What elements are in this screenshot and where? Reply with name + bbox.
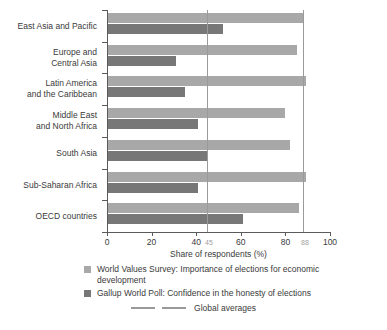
bar-chart-figure: East Asia and Pacific Europe and Central… (0, 0, 387, 330)
bar-wvs (107, 172, 306, 182)
category-label-line: South Asia (0, 148, 97, 159)
bar-group-east-asia-and-pacific (107, 10, 330, 42)
bar-wvs (107, 203, 299, 213)
bar-wvs (107, 140, 290, 150)
legend-line-icon (131, 307, 155, 309)
legend-swatch-icon (84, 266, 91, 273)
category-axis-labels: East Asia and Pacific Europe and Central… (0, 10, 101, 232)
category-label-line: and North Africa (0, 121, 97, 132)
legend-item-world-values-survey: World Values Survey: Importance of elect… (0, 264, 387, 285)
category-label-line: East Asia and Pacific (0, 21, 97, 32)
bar-group-oecd-countries (107, 200, 330, 232)
legend-item-gallup-world-poll: Gallup World Poll: Confidence in the hon… (0, 288, 387, 299)
legend-swatch-icon (84, 290, 91, 297)
bar-group-latin-america-and-the-caribbean (107, 73, 330, 105)
category-label-line: OECD countries (0, 211, 97, 222)
bar-group-europe-and-central-asia (107, 42, 330, 74)
category-label-europe-and-central-asia: Europe and Central Asia (0, 47, 97, 68)
y-axis-line (107, 10, 108, 233)
category-label-line: Central Asia (0, 58, 97, 69)
reference-value-label-88: 88 (301, 238, 309, 247)
category-label-oecd-countries: OECD countries (0, 211, 97, 222)
category-label-line: Europe and (0, 47, 97, 58)
bar-group-middle-east-and-north-africa (107, 105, 330, 137)
x-axis-tick-label-100: 100 (323, 237, 337, 247)
category-label-line: Latin America (0, 78, 97, 89)
x-axis-line (107, 232, 330, 233)
x-axis-title: Share of respondents (%) (107, 249, 330, 259)
x-axis-tick (107, 232, 108, 236)
reference-line-45 (207, 10, 208, 233)
legend-line-icon (162, 307, 186, 309)
category-label-latin-america-and-the-caribbean: Latin America and the Caribbean (0, 78, 97, 99)
bar-wvs (107, 108, 285, 118)
bar-group-sub-saharan-africa (107, 169, 330, 201)
legend-item-label: Global averages (194, 303, 256, 314)
category-label-line: Middle East (0, 110, 97, 121)
x-axis-tick (241, 232, 242, 236)
x-axis-tick (196, 232, 197, 236)
reference-value-label-45: 45 (205, 238, 213, 247)
legend-item-global-averages: Global averages (0, 303, 387, 314)
x-axis-tick-label-0: 0 (105, 237, 110, 247)
x-axis-tick (330, 232, 331, 236)
bar-wvs (107, 45, 297, 55)
x-axis-tick (285, 232, 286, 236)
bar-gallup (107, 214, 243, 224)
bar-gallup (107, 24, 223, 34)
x-axis-tick-label-40: 40 (191, 237, 200, 247)
category-label-south-asia: South Asia (0, 148, 97, 159)
category-label-east-asia-and-pacific: East Asia and Pacific (0, 21, 97, 32)
bar-gallup (107, 87, 185, 97)
category-label-middle-east-and-north-africa: Middle East and North Africa (0, 110, 97, 131)
category-label-line: Sub-Saharan Africa (0, 180, 97, 191)
chart-legend: World Values Survey: Importance of elect… (0, 264, 387, 313)
legend-item-label: Gallup World Poll: Confidence in the hon… (97, 288, 311, 299)
bar-gallup (107, 119, 198, 129)
bar-gallup (107, 56, 176, 66)
x-axis-tick-label-60: 60 (236, 237, 245, 247)
bar-wvs (107, 76, 306, 86)
x-axis-tick-label-80: 80 (281, 237, 290, 247)
bar-wvs (107, 13, 303, 23)
bar-group-south-asia (107, 137, 330, 169)
category-label-line: and the Caribbean (0, 89, 97, 100)
reference-line-88 (303, 10, 304, 233)
bar-gallup (107, 151, 207, 161)
bar-rows (107, 10, 330, 232)
x-axis-tick (152, 232, 153, 236)
bar-gallup (107, 183, 198, 193)
x-axis-tick-label-20: 20 (147, 237, 156, 247)
legend-item-label: World Values Survey: Importance of elect… (97, 264, 347, 285)
category-label-sub-saharan-africa: Sub-Saharan Africa (0, 180, 97, 191)
